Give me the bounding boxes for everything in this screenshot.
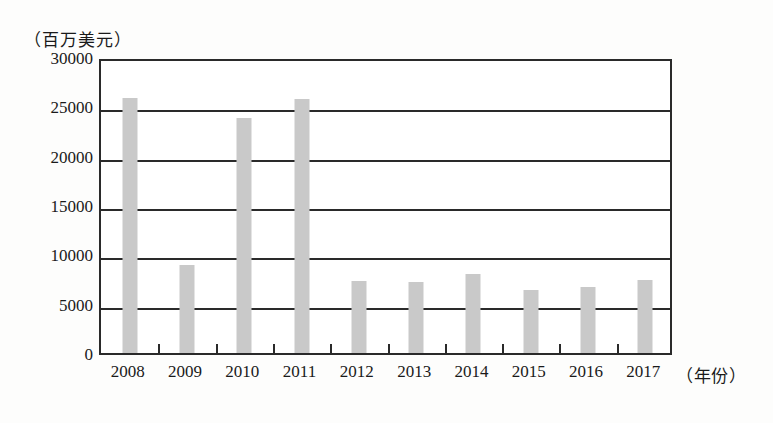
x-axis-tick-label: 2016 bbox=[569, 362, 603, 382]
bar bbox=[466, 274, 481, 353]
y-axis-tick-label-group: 050001000015000200002500030000 bbox=[0, 59, 93, 355]
bar-chart-figure: （百万美元） 050001000015000200002500030000 20… bbox=[0, 0, 773, 423]
x-axis-caption: （年份） bbox=[676, 362, 746, 387]
x-axis-tick-mark bbox=[158, 344, 160, 353]
x-axis-tick-mark bbox=[617, 344, 619, 353]
bar bbox=[122, 98, 137, 353]
y-axis-unit-caption: （百万美元） bbox=[24, 26, 132, 51]
x-axis-tick-label: 2017 bbox=[626, 362, 660, 382]
x-axis-tick-marks-group bbox=[101, 344, 670, 353]
bar bbox=[237, 118, 252, 353]
x-axis-tick-mark bbox=[273, 344, 275, 353]
bars-group bbox=[101, 61, 670, 353]
x-axis-tick-label: 2011 bbox=[283, 362, 316, 382]
y-axis-tick-label: 25000 bbox=[0, 98, 93, 118]
x-axis-tick-mark bbox=[445, 344, 447, 353]
bar bbox=[638, 280, 653, 353]
y-axis-tick-label: 15000 bbox=[0, 197, 93, 217]
x-axis-tick-label: 2009 bbox=[168, 362, 202, 382]
y-axis-tick-label: 30000 bbox=[0, 49, 93, 69]
x-axis-tick-mark bbox=[216, 344, 218, 353]
bar bbox=[294, 99, 309, 353]
x-axis-tick-mark bbox=[559, 344, 561, 353]
bar bbox=[409, 282, 424, 353]
x-axis-tick-mark bbox=[388, 344, 390, 353]
y-axis-tick-label: 10000 bbox=[0, 246, 93, 266]
bar bbox=[351, 281, 366, 353]
x-axis-tick-label: 2012 bbox=[340, 362, 374, 382]
x-axis-tick-label: 2010 bbox=[225, 362, 259, 382]
x-axis-tick-label: 2015 bbox=[512, 362, 546, 382]
x-axis-tick-label: 2008 bbox=[111, 362, 145, 382]
plot-area bbox=[99, 59, 672, 355]
y-axis-tick-label: 5000 bbox=[0, 296, 93, 316]
y-axis-tick-label: 20000 bbox=[0, 148, 93, 168]
x-axis-tick-mark bbox=[330, 344, 332, 353]
bar bbox=[179, 265, 194, 353]
y-axis-tick-label: 0 bbox=[0, 345, 93, 365]
x-axis-tick-label: 2013 bbox=[397, 362, 431, 382]
x-axis-tick-label: 2014 bbox=[454, 362, 488, 382]
x-axis-tick-mark bbox=[502, 344, 504, 353]
x-axis-tick-label-group: 2008200920102011201220132014201520162017 bbox=[99, 362, 672, 388]
